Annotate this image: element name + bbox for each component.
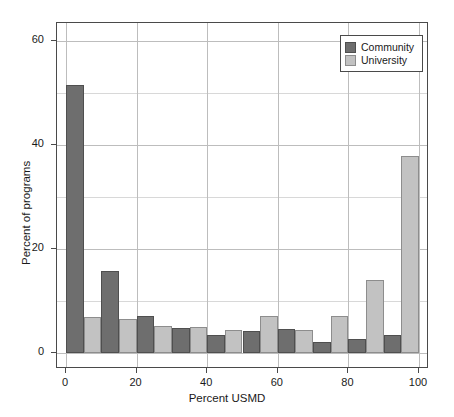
x-tick-label: 0 bbox=[45, 377, 85, 388]
bar-community bbox=[66, 85, 84, 353]
bar-community bbox=[137, 316, 155, 353]
bar-university bbox=[190, 327, 208, 353]
chart-figure: Percent of programs 0204060 020406080100… bbox=[0, 0, 454, 417]
bar-community bbox=[384, 335, 402, 353]
y-tick-label: 40 bbox=[0, 138, 44, 149]
legend-item-community: Community bbox=[345, 41, 417, 53]
x-tick-mark bbox=[65, 368, 66, 373]
bar-university bbox=[331, 316, 349, 353]
chart-legend: Community University bbox=[340, 35, 423, 72]
bar-community bbox=[348, 339, 366, 353]
legend-label-community: Community bbox=[361, 41, 414, 53]
legend-item-university: University bbox=[345, 54, 417, 66]
x-tick-label: 100 bbox=[398, 377, 438, 388]
bar-university bbox=[119, 319, 137, 353]
x-tick-label: 60 bbox=[257, 377, 297, 388]
x-tick-mark bbox=[418, 368, 419, 373]
y-tick-label: 60 bbox=[0, 34, 44, 45]
bar-community bbox=[207, 335, 225, 353]
bar-university bbox=[295, 330, 313, 353]
legend-swatch-community-icon bbox=[345, 42, 356, 53]
legend-label-university: University bbox=[361, 54, 407, 66]
bar-university bbox=[154, 326, 172, 353]
plot-area bbox=[56, 22, 428, 368]
bar-university bbox=[225, 330, 243, 353]
x-tick-mark bbox=[347, 368, 348, 373]
x-axis-title: Percent USMD bbox=[0, 392, 454, 404]
x-tick-mark bbox=[136, 368, 137, 373]
x-tick-label: 80 bbox=[327, 377, 367, 388]
x-tick-mark bbox=[206, 368, 207, 373]
bar-community bbox=[101, 271, 119, 353]
x-tick-label: 40 bbox=[186, 377, 226, 388]
bar-university bbox=[260, 316, 278, 353]
y-tick-label: 20 bbox=[0, 242, 44, 253]
bar-community bbox=[313, 342, 331, 353]
x-tick-label: 20 bbox=[116, 377, 156, 388]
bar-community bbox=[243, 331, 261, 353]
plot-inner bbox=[57, 23, 427, 367]
bar-university bbox=[366, 280, 384, 353]
y-tick-label: 0 bbox=[0, 346, 44, 357]
bar-community bbox=[278, 329, 296, 353]
legend-swatch-university-icon bbox=[345, 55, 356, 66]
bar-university bbox=[84, 317, 102, 353]
bar-series-group bbox=[57, 23, 427, 367]
bar-university bbox=[401, 156, 419, 353]
bar-community bbox=[172, 328, 190, 353]
x-tick-mark bbox=[277, 368, 278, 373]
